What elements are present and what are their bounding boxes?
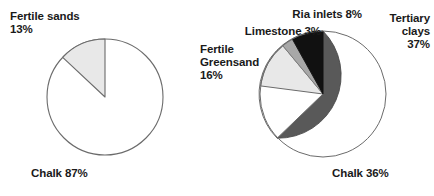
left-pie-chart: Fertile sands 13% Chalk 87% bbox=[0, 0, 200, 196]
right-pie-chart: Ria inlets 8% Limestone 3% Fertile Green… bbox=[200, 0, 434, 196]
pie-chart-figure: Fertile sands 13% Chalk 87% Ria inlets 8… bbox=[0, 0, 434, 196]
right-label-chalk: Chalk 36% bbox=[332, 167, 389, 180]
right-label-fertile-greensand: Fertile Greensand 16% bbox=[200, 43, 259, 83]
right-label-tertiary-clays: Tertiary clays 37% bbox=[358, 12, 430, 52]
right-label-ria-inlets: Ria inlets 8% bbox=[210, 8, 362, 21]
left-label-fertile-sands: Fertile sands 13% bbox=[10, 10, 80, 36]
left-label-chalk: Chalk 87% bbox=[31, 167, 88, 180]
right-label-limestone: Limestone 3% bbox=[195, 25, 321, 38]
